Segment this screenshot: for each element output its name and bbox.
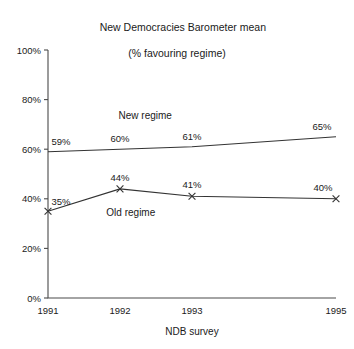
chart-axes: [48, 50, 336, 298]
point-label-0-0: 59%: [51, 136, 71, 147]
series-annotation-0: New regime: [119, 110, 173, 121]
chart-container: New Democracies Barometer mean (% favour…: [0, 0, 354, 349]
x-tick-label: 1991: [37, 305, 58, 316]
y-tick-label: 0%: [27, 293, 41, 304]
x-tick-label: 1995: [325, 305, 346, 316]
data-point-labels: 59%60%61%65%35%44%41%40%: [51, 121, 333, 207]
point-label-0-1: 60%: [110, 133, 130, 144]
series-annotation-1: Old regime: [106, 207, 155, 218]
y-tick-label: 20%: [22, 243, 42, 254]
chart-series: [45, 137, 340, 215]
point-label-1-1: 44%: [110, 172, 130, 183]
x-axis-ticks: 1991199219931995: [37, 305, 346, 316]
y-axis-ticks: 0%20%40%60%80%100%: [17, 45, 48, 304]
y-tick-label: 80%: [22, 94, 42, 105]
x-axis-title: NDB survey: [165, 326, 218, 337]
point-label-0-3: 65%: [312, 121, 332, 132]
line-chart-plot: 0%20%40%60%80%100% 1991199219931995 59%6…: [0, 0, 354, 349]
series-line-1: [48, 189, 336, 211]
x-tick-label: 1992: [109, 305, 130, 316]
point-label-1-2: 41%: [182, 179, 202, 190]
y-tick-label: 40%: [22, 193, 42, 204]
point-label-1-0: 35%: [51, 196, 71, 207]
point-label-0-2: 61%: [182, 131, 202, 142]
y-tick-label: 60%: [22, 144, 42, 155]
axis-lines: [48, 50, 336, 298]
x-tick-label: 1993: [181, 305, 202, 316]
series-annotations: New regimeOld regime: [106, 110, 172, 218]
y-tick-label: 100%: [17, 45, 42, 56]
x-axis-title-text: NDB survey: [165, 326, 218, 337]
point-label-1-3: 40%: [313, 182, 333, 193]
